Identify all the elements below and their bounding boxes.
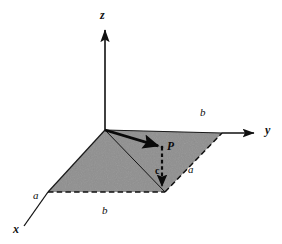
edge-label-b-bottom: b	[102, 205, 108, 216]
vector-label-c: c	[155, 166, 159, 176]
vector-diagram-figure: z y x b a a b P c	[0, 0, 282, 244]
axis-label-z: z	[100, 9, 105, 21]
edge-label-b-top-right: b	[200, 107, 206, 118]
edge-label-a-left: a	[33, 190, 39, 201]
edge-label-a-right: a	[188, 164, 194, 175]
point-p-marker	[161, 146, 164, 149]
axis-label-x: x	[13, 223, 19, 235]
point-label-p: P	[167, 141, 174, 153]
axis-label-y: y	[265, 124, 270, 136]
diagram-canvas	[0, 0, 282, 244]
